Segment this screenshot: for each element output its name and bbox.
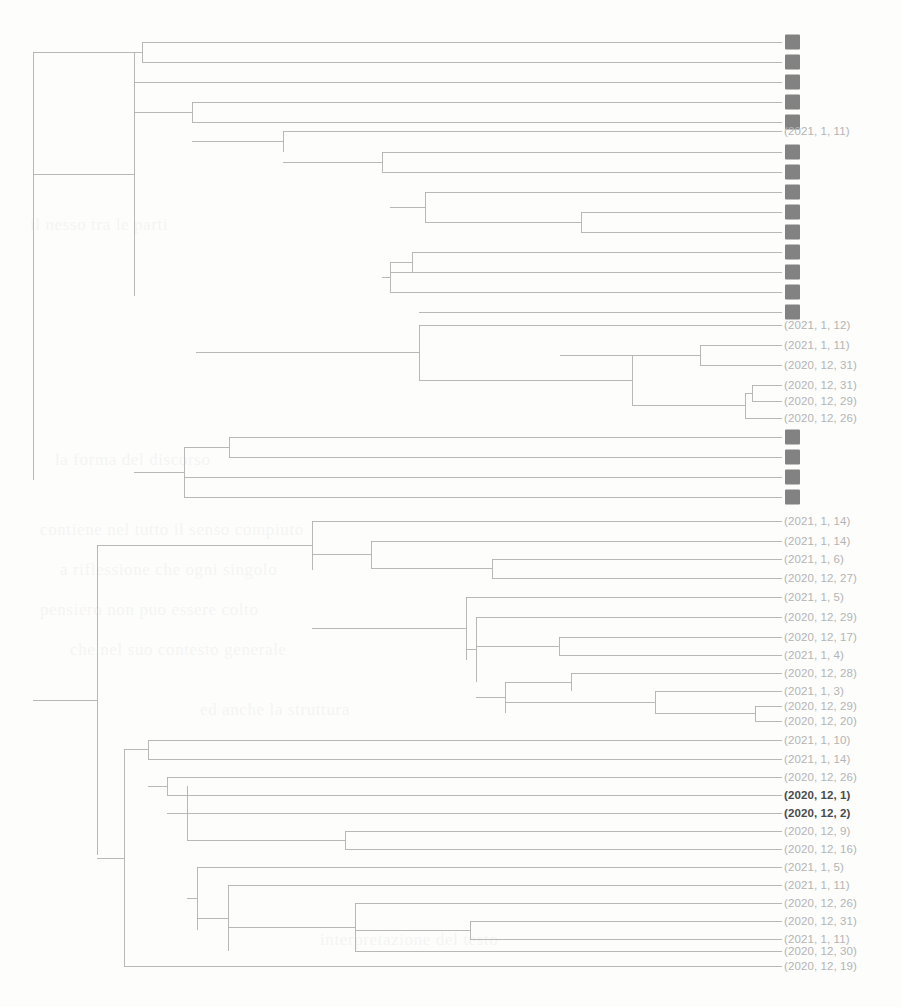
leaf-label: (2021, 1, 11) bbox=[784, 125, 850, 137]
leaf-label: (2020, 12, 17) bbox=[784, 631, 857, 643]
leaf-label: (2020, 12, 28) bbox=[784, 667, 857, 679]
leaf-label-redacted bbox=[785, 95, 800, 110]
leaf-label: (2021, 1, 10) bbox=[784, 734, 851, 746]
leaf-label: (2021, 1, 14) bbox=[784, 515, 851, 527]
leaf-label: (2020, 12, 26) bbox=[784, 771, 857, 783]
leaf-label: (2020, 12, 30) bbox=[784, 945, 857, 957]
leaf-label-redacted bbox=[785, 285, 800, 300]
leaf-label: (2020, 12, 29) bbox=[784, 395, 857, 407]
leaf-label-redacted bbox=[785, 35, 800, 50]
leaf-label: (2021, 1, 11) bbox=[784, 933, 850, 945]
leaf-label-redacted bbox=[785, 450, 800, 465]
leaf-label: (2021, 1, 12) bbox=[784, 319, 851, 331]
leaf-label-redacted bbox=[785, 470, 800, 485]
leaf-label: (2021, 1, 4) bbox=[784, 649, 844, 661]
leaf-label: (2020, 12, 31) bbox=[784, 359, 857, 371]
leaf-label: (2020, 12, 26) bbox=[784, 412, 857, 424]
leaf-label: (2020, 12, 1) bbox=[784, 789, 851, 801]
leaf-label: (2021, 1, 14) bbox=[784, 535, 851, 547]
leaf-label-redacted bbox=[785, 185, 800, 200]
leaf-label-redacted bbox=[785, 305, 800, 320]
leaf-label: (2020, 12, 31) bbox=[784, 379, 857, 391]
leaf-label-redacted bbox=[785, 245, 800, 260]
leaf-label-redacted bbox=[785, 75, 800, 90]
leaf-label: (2021, 1, 5) bbox=[784, 861, 844, 873]
leaf-label: (2020, 12, 26) bbox=[784, 897, 857, 909]
leaf-label: (2021, 1, 3) bbox=[784, 685, 844, 697]
leaf-label-redacted bbox=[785, 225, 800, 240]
leaf-label: (2020, 12, 29) bbox=[784, 700, 857, 712]
leaf-label-redacted bbox=[785, 265, 800, 280]
leaf-label: (2021, 1, 14) bbox=[784, 753, 851, 765]
leaf-label: (2020, 12, 29) bbox=[784, 611, 857, 623]
leaf-label-redacted bbox=[785, 205, 800, 220]
leaf-label-redacted bbox=[785, 490, 800, 505]
leaf-label: (2021, 1, 11) bbox=[784, 879, 850, 891]
leaf-label: (2021, 1, 6) bbox=[784, 553, 844, 565]
leaf-label: (2020, 12, 19) bbox=[784, 960, 857, 972]
leaf-label: (2020, 12, 20) bbox=[784, 715, 857, 727]
leaf-label: (2020, 12, 31) bbox=[784, 915, 857, 927]
leaf-label-redacted bbox=[785, 145, 800, 160]
leaf-label: (2020, 12, 2) bbox=[784, 807, 851, 819]
dendrogram-figure: contiene nel tutto il senso compiutoa ri… bbox=[0, 0, 901, 1007]
leaf-label: (2021, 1, 11) bbox=[784, 339, 850, 351]
leaf-label: (2021, 1, 5) bbox=[784, 591, 844, 603]
dendrogram-tree-lines bbox=[0, 0, 901, 1007]
leaf-label-redacted bbox=[785, 55, 800, 70]
leaf-label: (2020, 12, 16) bbox=[784, 843, 857, 855]
leaf-label: (2020, 12, 27) bbox=[784, 572, 857, 584]
leaf-label-redacted bbox=[785, 430, 800, 445]
leaf-label: (2020, 12, 9) bbox=[784, 825, 851, 837]
leaf-label-redacted bbox=[785, 165, 800, 180]
